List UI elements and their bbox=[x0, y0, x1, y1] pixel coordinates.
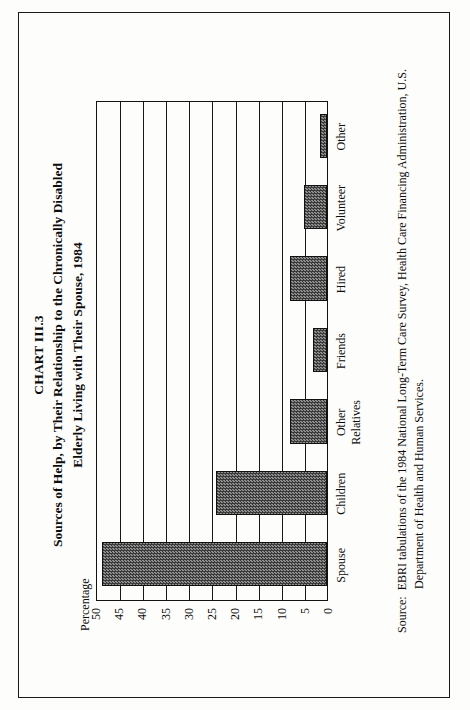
gridline bbox=[282, 102, 283, 600]
scanned-page: CHART III.3 Sources of Help, by Their Re… bbox=[0, 0, 470, 710]
gridline bbox=[120, 102, 121, 600]
category-label: Other bbox=[334, 123, 349, 150]
chart-title-line-1: Sources of Help, by Their Relationship t… bbox=[49, 17, 68, 693]
y-tick-label: 0 bbox=[321, 608, 336, 614]
y-axis-title: Percentage bbox=[78, 578, 93, 631]
y-tick-label: 10 bbox=[274, 608, 289, 620]
y-tick-label: 30 bbox=[181, 608, 196, 620]
gridline bbox=[189, 102, 190, 600]
source-text: EBRI tabulations of the 1984 National Lo… bbox=[395, 69, 426, 590]
gridline bbox=[305, 102, 306, 600]
category-label: Children bbox=[334, 473, 349, 515]
gridline bbox=[236, 102, 237, 600]
bar bbox=[304, 185, 327, 229]
y-axis-tick-labels: 50454035302520151050 bbox=[96, 605, 328, 631]
y-tick-label: 35 bbox=[158, 608, 173, 620]
category-label: Hired bbox=[334, 266, 349, 293]
bar bbox=[102, 542, 327, 586]
category-label: Friends bbox=[334, 333, 349, 369]
bar bbox=[216, 471, 327, 515]
source-label: Source: bbox=[395, 596, 409, 633]
gridline bbox=[96, 102, 97, 600]
gridline bbox=[259, 102, 260, 600]
plot-frame bbox=[96, 101, 328, 601]
page-border: CHART III.3 Sources of Help, by Their Re… bbox=[18, 12, 450, 698]
y-tick-label: 25 bbox=[205, 608, 220, 620]
category-label: Volunteer bbox=[334, 185, 349, 231]
gridline bbox=[212, 102, 213, 600]
bar bbox=[290, 399, 327, 443]
y-tick-label: 40 bbox=[135, 608, 150, 620]
y-tick-label: 45 bbox=[112, 608, 127, 620]
category-label: Other Relatives bbox=[334, 400, 363, 445]
bar bbox=[320, 114, 327, 158]
gridline bbox=[143, 102, 144, 600]
source-note: Source: EBRI tabulations of the 1984 Nat… bbox=[394, 53, 428, 633]
gridline bbox=[166, 102, 167, 600]
bar bbox=[290, 256, 327, 300]
x-axis-category-labels: SpouseChildrenOther RelativesFriendsHire… bbox=[334, 101, 374, 601]
y-tick-label: 15 bbox=[251, 608, 266, 620]
y-tick-label: 5 bbox=[297, 608, 312, 614]
rotated-content-stage: CHART III.3 Sources of Help, by Their Re… bbox=[22, 17, 446, 693]
category-label: Spouse bbox=[334, 548, 349, 583]
chart-number: CHART III.3 bbox=[30, 17, 48, 693]
plot-area: Percentage 50454035302520151050 bbox=[96, 75, 328, 631]
bar bbox=[313, 328, 327, 372]
y-tick-label: 50 bbox=[89, 608, 104, 620]
y-tick-label: 20 bbox=[228, 608, 243, 620]
